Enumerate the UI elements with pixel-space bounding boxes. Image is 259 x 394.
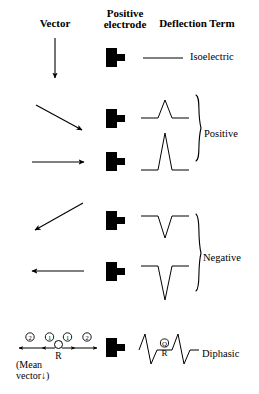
deflection-diphasic-qrs-complex: Q R xyxy=(139,334,199,364)
svg-text:2: 2 xyxy=(85,334,88,341)
brace-negative xyxy=(196,214,201,291)
mean-vector-diagram: R 2 1 1 2 xyxy=(19,333,97,361)
deflection-tall-upward-spike xyxy=(141,133,189,170)
diphasic-label-q: Q xyxy=(162,340,167,348)
electrode-plug-icon-row1 xyxy=(106,48,125,67)
svg-text:2: 2 xyxy=(28,334,31,341)
deflection-small-upward-spike xyxy=(141,100,189,118)
electrode-plug-icon-row5 xyxy=(106,262,125,281)
mean-vector-marker-2-left: 2 xyxy=(26,333,34,342)
vector-arrow-down-left xyxy=(35,203,83,230)
electrode-plug-icon-row4 xyxy=(106,211,125,230)
mean-vector-center-label: R xyxy=(55,351,62,361)
figure-graphics: R 2 1 1 2 Q xyxy=(0,0,259,394)
deflection-deep-downward-spike xyxy=(141,266,189,300)
electrode-plug-icon-row6 xyxy=(106,338,125,357)
svg-text:1: 1 xyxy=(48,334,51,341)
mean-vector-marker-1-right: 1 xyxy=(63,333,71,342)
electrode-plug-icon-row3 xyxy=(106,152,125,171)
vector-arrow-down-right xyxy=(36,105,82,130)
electrode-plug-icon-row2 xyxy=(106,109,125,128)
deflection-small-downward-spike xyxy=(141,216,189,238)
brace-positive xyxy=(196,95,201,161)
svg-text:1: 1 xyxy=(66,334,69,341)
mean-vector-marker-2-right: 2 xyxy=(83,333,91,342)
diphasic-label-r: R xyxy=(161,348,167,358)
ecg-vector-deflection-figure: Vector Positive electrode Deflection Ter… xyxy=(0,0,259,394)
mean-vector-marker-1-left: 1 xyxy=(45,333,53,342)
